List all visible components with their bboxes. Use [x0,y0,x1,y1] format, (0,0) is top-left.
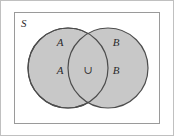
venn-diagram-canvas: S A A B B ∪ [0,0,174,136]
label-a-bottom: A [56,64,64,76]
label-b-bottom: B [113,64,120,76]
union-symbol: ∪ [83,64,92,76]
venn-diagram-figure: S A A B B ∪ [0,0,174,136]
label-b-top: B [113,36,120,48]
label-a-top: A [56,36,64,48]
universal-set-label: S [21,17,27,29]
